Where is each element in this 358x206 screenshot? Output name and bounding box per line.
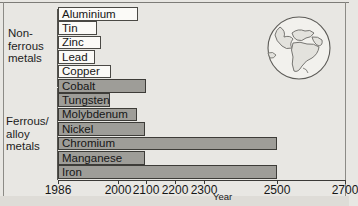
bar-iron: Iron	[58, 165, 277, 179]
page-frame-left	[3, 2, 4, 198]
x-tick-label-2100: 2100	[133, 184, 160, 197]
bar-zinc: Zinc	[58, 36, 101, 50]
x-axis-line	[58, 180, 345, 181]
bar-manganese: Manganese	[58, 151, 145, 165]
bar-cobalt: Cobalt	[58, 79, 146, 93]
bar-label: Zinc	[62, 36, 84, 48]
bar-label: Lead	[62, 51, 88, 63]
x-tick-label-2200: 2200	[162, 184, 189, 197]
bar-chromium: Chromium	[58, 137, 277, 151]
bar-label: Molybdenum	[62, 108, 128, 120]
bar-label: Nickel	[62, 123, 93, 135]
bar-molybdenum: Molybdenum	[58, 108, 137, 122]
x-tick-label-2700: 2700	[332, 184, 358, 197]
bar-tin: Tin	[58, 21, 97, 35]
x-tick-label-2500: 2500	[264, 184, 291, 197]
globe-icon	[262, 11, 336, 85]
group-label-non-ferrous-metals: Non- ferrous metals	[8, 27, 60, 65]
bar-aluminium: Aluminium	[58, 7, 138, 21]
page-frame-top	[0, 2, 349, 3]
bar-label: Tungsten	[62, 94, 110, 106]
bar-copper: Copper	[58, 65, 111, 79]
bar-lead: Lead	[58, 50, 95, 64]
bar-label: Aluminium	[62, 8, 116, 20]
bar-label: Cobalt	[62, 80, 95, 92]
bar-label: Copper	[62, 65, 100, 77]
group-label-ferrous-alloy-metals: Ferrous/ alloy metals	[6, 115, 60, 153]
bar-nickel: Nickel	[58, 122, 145, 136]
page-frame-right	[345, 2, 346, 198]
bar-label: Tin	[62, 22, 78, 34]
bar-label: Manganese	[62, 152, 122, 164]
bar-label: Chromium	[62, 137, 115, 149]
x-tick-label-2000: 2000	[105, 184, 132, 197]
x-tick-label-1986: 1986	[45, 184, 72, 197]
x-axis-title: Year	[213, 191, 232, 202]
page-bleed-text	[4, 196, 304, 206]
bar-tungsten: Tungsten	[58, 93, 110, 107]
bar-label: Iron	[62, 166, 82, 178]
